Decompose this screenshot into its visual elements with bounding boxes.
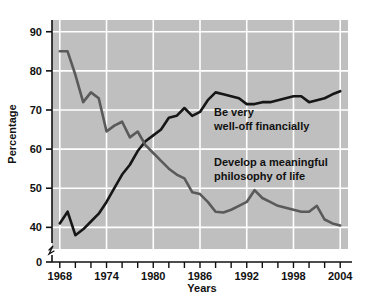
x-tick-label: 1992 bbox=[234, 270, 258, 282]
y-tick-label: 90 bbox=[30, 26, 42, 38]
y-tick-label: 0 bbox=[36, 256, 42, 268]
y-axis-title: Percentage bbox=[6, 104, 18, 163]
x-tick-label: 1968 bbox=[48, 270, 72, 282]
x-tick-label: 1986 bbox=[188, 270, 212, 282]
y-tick-label: 80 bbox=[30, 65, 42, 77]
x-tick-label: 1998 bbox=[281, 270, 305, 282]
annotation-financially-line1: Be very bbox=[214, 106, 255, 118]
x-axis-tick-labels: 1968197419801986199219982004 bbox=[48, 270, 354, 282]
x-axis-ticks bbox=[60, 262, 340, 268]
annotation-philosophy-line1: Develop a meaningful bbox=[214, 156, 328, 168]
x-tick-label: 1980 bbox=[141, 270, 165, 282]
y-tick-label: 50 bbox=[30, 182, 42, 194]
annotation-philosophy-line2: philosophy of life bbox=[214, 170, 305, 182]
annotation-financially-line2: well-off financially bbox=[213, 120, 310, 132]
y-axis-tick-labels: 0405060708090 bbox=[30, 26, 42, 268]
x-tick-label: 2004 bbox=[328, 270, 353, 282]
chart-container: 0405060708090 19681974198019861992199820… bbox=[0, 0, 370, 297]
y-tick-label: 60 bbox=[30, 143, 42, 155]
x-axis-title: Years bbox=[187, 282, 216, 294]
y-axis-ticks bbox=[46, 32, 52, 262]
y-tick-label: 70 bbox=[30, 104, 42, 116]
line-chart: 0405060708090 19681974198019861992199820… bbox=[0, 0, 370, 297]
y-tick-label: 40 bbox=[30, 221, 42, 233]
x-tick-label: 1974 bbox=[94, 270, 119, 282]
